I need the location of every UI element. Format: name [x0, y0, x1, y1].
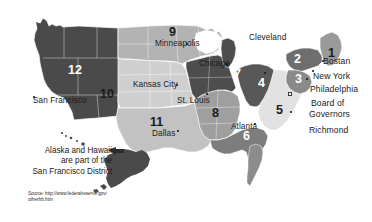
- alaska-hawaii-note: Alaska and Hawaii are part of the San Fr…: [14, 146, 112, 177]
- city-label-san-francisco: San Francisco: [33, 97, 87, 105]
- source-credit: Source: http://www.federalreserve.gov/ o…: [28, 191, 158, 202]
- city-label-atlanta: Atlanta: [231, 123, 257, 131]
- city-label-cleveland: Cleveland: [249, 34, 286, 42]
- city-label-st-louis: St. Louis: [177, 97, 210, 105]
- side-label-boston: Bostan: [323, 57, 350, 66]
- city-label-kansas-city: Kansas City: [133, 81, 178, 89]
- city-label-minneapolis: Minneapolis: [155, 40, 200, 48]
- side-label-governors: Governors: [309, 110, 350, 119]
- district-2-shape: [286, 48, 322, 72]
- district-number-10: 10: [100, 88, 114, 101]
- city-label-chicago: Chicago: [199, 60, 230, 68]
- district-number-4: 4: [258, 77, 265, 90]
- florida-shape: [247, 144, 263, 186]
- district-number-8: 8: [212, 107, 219, 120]
- side-label-new-york: New York: [313, 72, 350, 81]
- district-number-11: 11: [150, 116, 163, 129]
- district-number-12: 12: [68, 64, 82, 77]
- side-label-richmond: Richmond: [309, 126, 349, 135]
- district-number-9: 9: [169, 26, 176, 39]
- side-label-philadelphia: Philadelphia: [310, 85, 358, 94]
- district-number-6: 6: [243, 130, 250, 143]
- city-label-dallas: Dallas: [152, 130, 175, 138]
- district-number-5: 5: [276, 104, 283, 117]
- hawaii-shape: [61, 132, 85, 146]
- board-of-governors-marker: [288, 92, 292, 96]
- district-number-3: 3: [295, 73, 302, 86]
- district-number-7: 7: [234, 68, 241, 81]
- district-number-2: 2: [294, 53, 301, 66]
- federal-reserve-districts-map: 12 9 10 11 8 7 4 2 1 3 5 6 Minneapolis C…: [0, 0, 372, 222]
- side-label-board-of: Board of: [311, 99, 344, 108]
